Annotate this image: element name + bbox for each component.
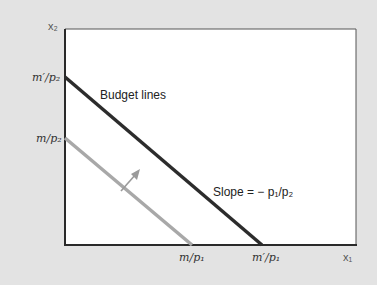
y-axis-label: x₂	[48, 21, 58, 32]
y-intercept-new-label: m′/p₂	[32, 72, 60, 83]
x-intercept-old-label: m/p₁	[179, 252, 205, 263]
budget-lines-label: Budget lines	[100, 89, 166, 101]
x-axis-label: x₁	[343, 252, 352, 263]
x-intercept-new-label: m′/p₁	[252, 252, 280, 263]
slope-label: Slope = − p₁/p₂	[213, 186, 293, 198]
plot-area	[65, 29, 356, 245]
budget-line-diagram: x₂ x₁ m′/p₂ m/p₂ m/p₁ m′/p₁ Budget lines…	[0, 0, 377, 285]
y-intercept-old-label: m/p₂	[36, 133, 62, 144]
